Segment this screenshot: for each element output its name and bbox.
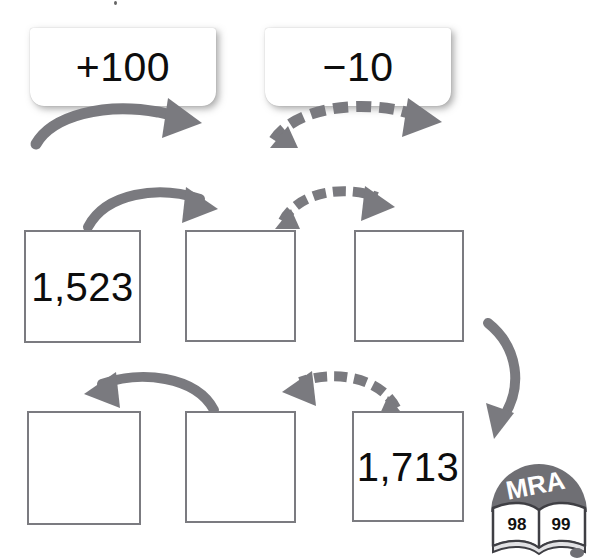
legend-label-minus-10: −10 [322, 47, 393, 88]
cell-top-row-2[interactable] [185, 230, 296, 342]
cell-value: 1,523 [31, 267, 134, 307]
legend-card-minus-10: −10 [265, 28, 451, 106]
legend-arrow-solid-icon [30, 96, 230, 158]
scan-speck [114, 1, 117, 5]
cell-bottom-row-1[interactable] [27, 411, 141, 525]
cell-bottom-row-2[interactable] [185, 411, 296, 523]
cell-bottom-row-3[interactable]: 1,713 [352, 411, 464, 522]
connector-row-link-solid-icon [470, 313, 540, 443]
legend-arrow-dashed-icon [268, 96, 468, 158]
legend-label-plus-100: +100 [76, 47, 170, 88]
logo-page-left: 98 [508, 515, 527, 534]
logo-page-right: 99 [552, 515, 571, 534]
cell-value: 1,713 [357, 447, 460, 487]
cell-top-row-1[interactable]: 1,523 [24, 230, 141, 343]
legend-card-plus-100: +100 [30, 28, 216, 106]
cell-top-row-3[interactable] [354, 230, 464, 342]
publisher-logo: MRA 98 99 [487, 450, 591, 560]
